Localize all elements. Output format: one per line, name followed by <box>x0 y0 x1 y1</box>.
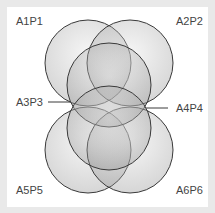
label-a4p4: A4P4 <box>176 102 203 114</box>
label-a3p3: A3P3 <box>16 96 43 108</box>
circle-a4p4 <box>67 86 151 170</box>
label-a5p5: A5P5 <box>16 184 43 196</box>
label-a2p2: A2P2 <box>176 15 203 27</box>
label-a6p6: A6P6 <box>176 184 203 196</box>
label-a1p1: A1P1 <box>16 15 43 27</box>
